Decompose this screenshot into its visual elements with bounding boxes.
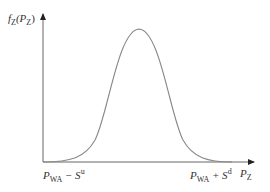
y-axis-label: fZ(PZ) bbox=[8, 13, 35, 27]
right-bound-tick-label: PWA + Sd bbox=[190, 168, 232, 184]
density-curve bbox=[43, 29, 232, 162]
left-bound-tick-label: PWA − Su bbox=[43, 168, 85, 184]
x-axis-label: PZ bbox=[240, 168, 252, 182]
density-chart bbox=[0, 0, 270, 192]
